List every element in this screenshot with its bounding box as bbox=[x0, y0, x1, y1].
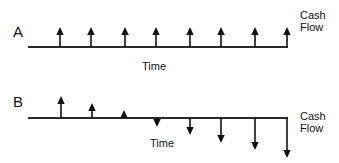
panel-b-arrow-8-down bbox=[283, 118, 290, 158]
panel-b-cash-flow-line2: Flow bbox=[300, 122, 326, 134]
panel-a-arrow-8 bbox=[283, 27, 290, 47]
panel-a-arrow-4 bbox=[152, 27, 159, 47]
panel-a-arrow-5 bbox=[186, 27, 193, 47]
panel-a-arrow-3 bbox=[121, 27, 128, 47]
panel-a-cash-flow-label: Cash Flow bbox=[300, 9, 326, 33]
panel-a-cash-flow-line2: Flow bbox=[300, 21, 326, 33]
panel-a-plot bbox=[0, 0, 339, 82]
panel-b: B bbox=[0, 82, 339, 163]
panel-b-plot bbox=[0, 82, 339, 163]
panel-b-arrow-1-up bbox=[57, 96, 64, 118]
panel-b-arrow-4-down bbox=[153, 118, 160, 127]
panel-b-arrow-3-up bbox=[120, 110, 127, 118]
panel-a-arrow-6 bbox=[217, 27, 224, 47]
panel-b-arrow-5-down bbox=[186, 118, 193, 135]
panel-a-arrow-1 bbox=[56, 27, 63, 47]
panel-a-arrow-7 bbox=[251, 27, 258, 47]
panel-a-arrow-2 bbox=[87, 27, 94, 47]
panel-b-time-label: Time bbox=[150, 137, 174, 149]
panel-b-cash-flow-line1: Cash bbox=[300, 110, 326, 122]
panel-a-time-label: Time bbox=[142, 60, 166, 72]
panel-b-arrow-6-down bbox=[217, 118, 224, 143]
panel-b-arrow-2-up bbox=[88, 103, 95, 118]
panel-b-arrow-7-down bbox=[251, 118, 258, 150]
panel-b-cash-flow-label: Cash Flow bbox=[300, 110, 326, 134]
panel-a: A bbox=[0, 0, 339, 82]
panel-a-cash-flow-line1: Cash bbox=[300, 9, 326, 21]
cash-flow-diagram: A bbox=[0, 0, 339, 163]
